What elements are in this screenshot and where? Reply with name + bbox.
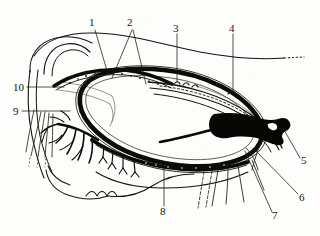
fan-line-3 xyxy=(238,166,244,202)
bulb-fork-2 xyxy=(108,163,116,169)
left-shoulder-contour xyxy=(30,37,92,72)
hair-4 xyxy=(52,114,53,157)
branching-vessel-tree xyxy=(41,111,139,177)
hair-dot-1 xyxy=(29,158,30,166)
hair-5 xyxy=(26,110,34,152)
right-mass-tail xyxy=(160,130,211,142)
pouch-outline xyxy=(46,170,108,199)
lower-left-soft xyxy=(48,166,70,185)
fan-line-5 xyxy=(198,172,204,208)
hair-3 xyxy=(45,113,49,157)
bulb-fork-4 xyxy=(131,172,139,177)
label-9: 9 xyxy=(13,106,19,117)
fan-line-2 xyxy=(226,168,228,204)
vessel-spur-a xyxy=(50,117,64,122)
left-hair-tuft xyxy=(26,110,53,167)
leader-7 xyxy=(245,151,272,212)
hair-dot-3 xyxy=(45,159,46,167)
leader-5 xyxy=(283,128,300,158)
vessel-branch-2 xyxy=(67,129,76,154)
vessel-branch-4 xyxy=(89,138,92,163)
hook-serif-2 xyxy=(183,83,189,85)
label-4: 4 xyxy=(229,23,235,34)
left-inner-hook xyxy=(44,44,90,74)
label-8: 8 xyxy=(160,206,166,217)
vessel-branch-5 xyxy=(41,124,58,133)
label-2: 2 xyxy=(127,17,133,28)
right-dark-mass xyxy=(209,113,290,145)
label-6: 6 xyxy=(299,192,305,203)
fan-line-6 xyxy=(206,171,212,207)
label-1: 1 xyxy=(89,17,95,28)
bulb-fork-1 xyxy=(99,157,107,163)
membrane-line-b xyxy=(58,90,110,104)
bulb-fork-3 xyxy=(119,168,127,174)
vessel-spur-b xyxy=(61,111,70,120)
figure-canvas: 1 2 3 4 5 6 7 8 9 10 xyxy=(0,0,320,236)
pouch-right-outline xyxy=(108,174,194,197)
membrane-line-d xyxy=(110,104,113,126)
outer-contour-group xyxy=(28,33,304,178)
top-contour-tail xyxy=(284,57,304,58)
upper-ridge-group xyxy=(54,70,172,90)
right-dark-mass-group xyxy=(160,113,290,145)
anatomical-line-drawing xyxy=(0,0,320,236)
label-5: 5 xyxy=(301,155,307,166)
pouch-scallop xyxy=(86,192,117,197)
leader-1 xyxy=(95,30,108,74)
label-10: 10 xyxy=(13,82,24,93)
label-3: 3 xyxy=(173,23,179,34)
label-7: 7 xyxy=(272,210,278,221)
fan-line-1 xyxy=(212,170,218,206)
